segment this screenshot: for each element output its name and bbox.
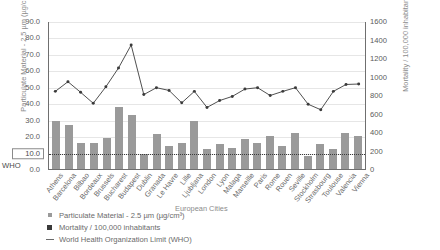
legend-item-who: World Health Organization Limit (WHO) bbox=[44, 233, 192, 245]
legend-item-particulate: Particulate Material - 2.5 µm (µg/cm³) bbox=[44, 209, 192, 221]
mortality-point-rome bbox=[269, 94, 272, 97]
y-axis-right-tick-label: 0 bbox=[370, 166, 410, 174]
y-axis-right-tick-label: 600 bbox=[370, 111, 410, 119]
y-axis-left-tick-label: 60.0 bbox=[0, 68, 44, 76]
y-axis-left-tick-label: 20.0 bbox=[0, 133, 44, 141]
mortality-point-brussels bbox=[104, 85, 107, 88]
x-axis-category-labels: AthensBarcelonaBilbaoBordeauxBrusselsBuc… bbox=[48, 171, 366, 205]
chart-legend: Particulate Material - 2.5 µm (µg/cm³) M… bbox=[44, 209, 192, 245]
mortality-polyline bbox=[55, 45, 358, 110]
legend-label-mortality: Mortality / 100,000 inhabitants bbox=[59, 223, 160, 232]
y-axis-right-tick-label: 800 bbox=[370, 92, 410, 100]
bar-swatch-icon bbox=[44, 213, 55, 217]
who-axis-label: WHO bbox=[2, 160, 21, 169]
mortality-point-budapest bbox=[130, 43, 133, 46]
legend-label-particulate: Particulate Material - 2.5 µm (µg/cm³) bbox=[59, 211, 185, 220]
mortality-point-dublin bbox=[142, 93, 145, 96]
mortality-point-athens bbox=[54, 90, 57, 93]
mortality-point-lyon bbox=[218, 99, 221, 102]
mortality-point-malaga bbox=[231, 95, 234, 98]
y-axis-right-tick-label: 1400 bbox=[370, 37, 410, 45]
mortality-point-strasbourg bbox=[319, 108, 322, 111]
mortality-point-ljubljana bbox=[193, 90, 196, 93]
y-axis-right-tick-label: 1200 bbox=[370, 55, 410, 63]
y-axis-left-tick-label: 80.0 bbox=[0, 35, 44, 43]
y-axis-left-tick-label: 90.0 bbox=[0, 18, 44, 26]
mortality-point-paris bbox=[256, 86, 259, 89]
mortality-point-rouen bbox=[281, 90, 284, 93]
dash-swatch-icon bbox=[44, 239, 55, 240]
line-marker-swatch-icon bbox=[44, 225, 55, 230]
chart-container: Particulate Material - 2.5 µm (µg/cm³) M… bbox=[0, 0, 440, 250]
y-axis-right-tick-label: 1000 bbox=[370, 74, 410, 82]
legend-label-who: World Health Organization Limit (WHO) bbox=[59, 235, 192, 244]
y-axis-right-tick-label: 1600 bbox=[370, 18, 410, 26]
y-axis-left-tick-label: 30.0 bbox=[0, 117, 44, 125]
y-axis-left-tick-label: 40.0 bbox=[0, 100, 44, 108]
who-limit-tick-box: 10.0 bbox=[12, 148, 44, 159]
mortality-point-marseille bbox=[243, 88, 246, 91]
mortality-point-bordeaux bbox=[92, 102, 95, 105]
mortality-point-le-havre bbox=[168, 89, 171, 92]
mortality-point-valencia bbox=[345, 83, 348, 86]
mortality-point-toulouse bbox=[332, 90, 335, 93]
mortality-point-seville bbox=[294, 86, 297, 89]
mortality-point-stockholm bbox=[307, 103, 310, 106]
plot-area bbox=[48, 22, 366, 170]
y-axis-left-tick-label: 50.0 bbox=[0, 84, 44, 92]
mortality-point-london bbox=[206, 106, 209, 109]
mortality-point-bucharest bbox=[117, 66, 120, 69]
mortality-point-lille bbox=[180, 101, 183, 104]
mortality-line-series bbox=[49, 22, 365, 169]
mortality-point-bilbao bbox=[79, 91, 82, 94]
legend-item-mortality: Mortality / 100,000 inhabitants bbox=[44, 221, 192, 233]
y-axis-left-tick-label: 70.0 bbox=[0, 51, 44, 59]
mortality-point-granada bbox=[155, 86, 158, 89]
y-axis-right-tick-label: 200 bbox=[370, 148, 410, 156]
y-axis-right-tick-label: 400 bbox=[370, 129, 410, 137]
mortality-point-vienna bbox=[357, 83, 360, 86]
mortality-point-barcelona bbox=[66, 80, 69, 83]
